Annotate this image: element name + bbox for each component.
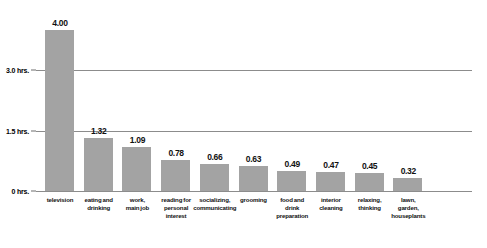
category-label: interiorcleaning: [309, 196, 353, 212]
bar-group: 0.66socializing,communicating: [196, 0, 234, 248]
category-label: relaxing,thinking: [348, 196, 392, 212]
bar: [200, 164, 229, 191]
bar: [239, 166, 268, 191]
category-label-line: reading for: [154, 196, 198, 204]
bar: [122, 147, 151, 191]
category-label-line: grooming: [232, 196, 276, 204]
category-label-line: thinking: [348, 204, 392, 212]
category-label: reading forpersonalinterest: [154, 196, 198, 221]
category-label-line: communicating: [193, 204, 237, 212]
category-label: eating anddrinking: [77, 196, 121, 212]
bar: [277, 171, 306, 191]
bar-value-label: 4.00: [41, 18, 79, 28]
bar-chart: 0 hrs.1.5 hrs.3.0 hrs. 4.00television1.3…: [0, 0, 487, 248]
category-label: socializing,communicating: [193, 196, 237, 212]
bar: [45, 30, 74, 191]
bar-value-label: 0.32: [389, 166, 427, 176]
category-label: television: [38, 196, 82, 204]
category-label: lawn,garden,houseplants: [386, 196, 430, 221]
category-label: food anddrinkpreparation: [270, 196, 314, 221]
bar-group: 1.32eating anddrinking: [80, 0, 118, 248]
bar-value-label: 0.63: [235, 154, 273, 164]
category-label-line: socializing,: [193, 196, 237, 204]
plot-area: 4.00television1.32eating anddrinking1.09…: [0, 0, 487, 248]
category-label-line: cleaning: [309, 204, 353, 212]
bar: [316, 172, 345, 191]
bar-group: 4.00television: [41, 0, 79, 248]
category-label-line: preparation: [270, 212, 314, 220]
y-tick-mark: [31, 130, 36, 131]
category-label-line: work,: [115, 196, 159, 204]
category-label-line: interior: [309, 196, 353, 204]
y-tick-mark: [31, 70, 36, 71]
bar-group: 1.09work,main job: [118, 0, 156, 248]
category-label-line: interest: [154, 212, 198, 220]
category-label-line: garden,: [386, 204, 430, 212]
bar-group: 0.49food anddrinkpreparation: [273, 0, 311, 248]
bar-value-label: 0.49: [273, 159, 311, 169]
bar-group: 0.63grooming: [235, 0, 273, 248]
bar-value-label: 0.45: [351, 161, 389, 171]
category-label-line: main job: [115, 204, 159, 212]
category-label-line: relaxing,: [348, 196, 392, 204]
category-label: work,main job: [115, 196, 159, 212]
category-label-line: eating and: [77, 196, 121, 204]
category-label-line: drinking: [77, 204, 121, 212]
bar-group: 0.45relaxing,thinking: [351, 0, 389, 248]
category-label-line: television: [38, 196, 82, 204]
bar-value-label: 1.32: [80, 126, 118, 136]
bar-value-label: 1.09: [118, 135, 156, 145]
bar: [355, 173, 384, 191]
bar-value-label: 0.66: [196, 152, 234, 162]
bar-group: 0.47interiorcleaning: [312, 0, 350, 248]
bar-value-label: 0.47: [312, 160, 350, 170]
bar-value-label: 0.78: [157, 148, 195, 158]
category-label-line: food and: [270, 196, 314, 204]
y-tick-mark: [31, 191, 36, 192]
bar: [84, 138, 113, 191]
category-label-line: drink: [270, 204, 314, 212]
bar: [161, 160, 190, 191]
bar: [393, 178, 422, 191]
category-label-line: lawn,: [386, 196, 430, 204]
bar-group: 0.32lawn,garden,houseplants: [389, 0, 427, 248]
category-label-line: houseplants: [386, 212, 430, 220]
bar-group: 0.78reading forpersonalinterest: [157, 0, 195, 248]
category-label-line: personal: [154, 204, 198, 212]
category-label: grooming: [232, 196, 276, 204]
